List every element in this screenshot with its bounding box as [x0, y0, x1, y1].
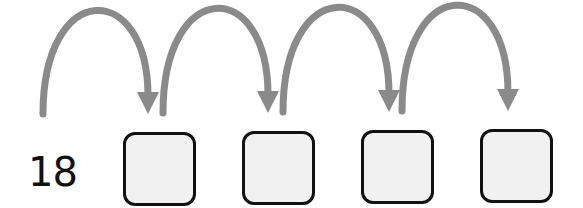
answer-box-4[interactable]: [480, 129, 553, 203]
arrowhead-icon: [257, 91, 279, 113]
answer-box-3[interactable]: [361, 130, 434, 204]
jump-arrow-3: [283, 7, 389, 112]
arrowhead-icon: [137, 92, 159, 114]
jump-arrow-4: [402, 5, 508, 111]
answer-box-2[interactable]: [242, 131, 315, 205]
start-number: 18: [28, 148, 77, 196]
arrowhead-icon: [497, 89, 519, 111]
jump-arrow-2: [163, 8, 268, 113]
arrowhead-icon: [378, 90, 400, 112]
answer-box-1[interactable]: [123, 132, 196, 206]
jump-arrow-1: [43, 10, 148, 114]
